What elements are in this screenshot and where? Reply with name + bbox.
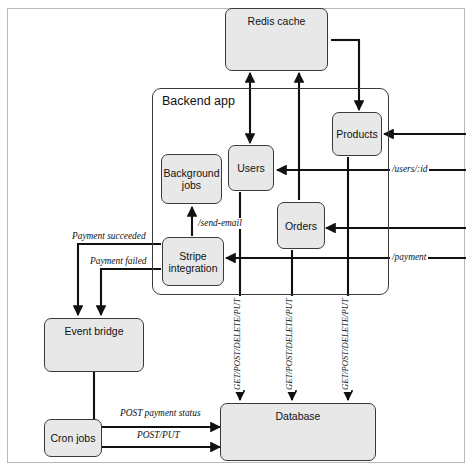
architecture-diagram: Backend app Redis cache Products Users O…: [0, 0, 474, 474]
node-redis-cache-label: Redis cache: [248, 15, 306, 27]
node-event-bridge[interactable]: Event bridge: [44, 318, 144, 372]
node-stripe-integration[interactable]: Stripe integration: [162, 237, 224, 286]
node-stripe-integration-label-line1: Stripe: [168, 250, 217, 262]
node-orders[interactable]: Orders: [277, 202, 325, 249]
node-products[interactable]: Products: [332, 112, 382, 156]
node-stripe-integration-label-line2: integration: [168, 262, 217, 274]
node-cron-jobs[interactable]: Cron jobs: [44, 419, 102, 457]
edge-stripe-eventbridge-succeeded: [78, 244, 161, 315]
node-background-jobs-label-line1: Background: [163, 167, 219, 179]
edge-label-crud-products: GET/POST/DELETE/PUT: [340, 296, 351, 392]
node-event-bridge-label: Event bridge: [65, 325, 124, 337]
node-cron-jobs-label: Cron jobs: [51, 432, 96, 444]
edge-label-users-id: /users/:id: [390, 164, 429, 175]
node-database-label: Database: [276, 410, 321, 422]
node-background-jobs[interactable]: Background jobs: [161, 154, 222, 204]
edge-label-crud-users: GET/POST/DELETE/PUT: [232, 296, 243, 392]
node-users-label: Users: [237, 162, 264, 174]
node-database[interactable]: Database: [220, 403, 376, 461]
edge-label-payment-succeeded: Payment succeeded: [70, 231, 148, 242]
edge-label-payment-failed: Payment failed: [88, 256, 149, 267]
node-products-label: Products: [336, 128, 377, 140]
edge-label-post-payment-status: POST payment status: [118, 408, 203, 419]
backend-app-label: Backend app: [160, 94, 237, 108]
edge-label-post-put: POST/PUT: [135, 430, 182, 441]
node-users[interactable]: Users: [228, 145, 274, 191]
edge-label-send-email: /send-email: [196, 218, 244, 229]
edge-label-payment: /payment: [390, 252, 428, 263]
node-orders-label: Orders: [285, 220, 317, 232]
edge-label-crud-orders: GET/POST/DELETE/PUT: [284, 296, 295, 392]
node-redis-cache[interactable]: Redis cache: [225, 8, 328, 71]
node-background-jobs-label-line2: jobs: [163, 179, 219, 191]
